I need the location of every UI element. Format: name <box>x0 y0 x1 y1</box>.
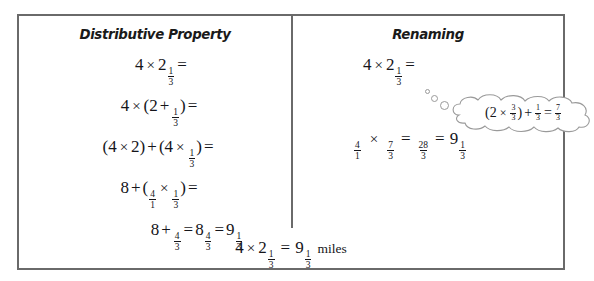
equals-symbol: = <box>186 96 200 115</box>
multiply-symbol: × <box>144 57 158 73</box>
numeral-four: 4 <box>363 55 372 74</box>
numeral-four: 4 <box>165 137 174 156</box>
numerator: 3 <box>510 104 516 112</box>
numeral-four: 4 <box>108 137 117 156</box>
whole-part: 2 <box>258 238 267 257</box>
numerator: 4 <box>149 189 156 199</box>
denominator: 1 <box>149 199 156 210</box>
distributive-property-steps: 4×213= 4×(2+13)= (4×2)+(4×13)= 8+(41×13)… <box>19 56 291 253</box>
right-paren: ) <box>180 96 186 115</box>
whole-part: 8 <box>195 220 204 239</box>
whole-part: 2 <box>386 55 395 74</box>
left-paren: ( <box>143 178 149 197</box>
denominator: 3 <box>305 259 312 270</box>
fraction-one-third: 13 <box>168 66 175 87</box>
numeral-eight: 8 <box>151 220 160 239</box>
equals-symbol: = <box>276 238 296 257</box>
summary-equation: 4×213=913miles <box>19 238 563 270</box>
denominator: 3 <box>555 113 561 122</box>
multiply-symbol: × <box>129 98 143 114</box>
denominator: 1 <box>354 150 361 161</box>
denominator: 3 <box>172 117 179 128</box>
fraction-one-third: 13 <box>305 249 312 270</box>
multiply-symbol: × <box>497 106 510 121</box>
numerator: 1 <box>459 140 466 150</box>
multiply-symbol: × <box>372 57 386 73</box>
thought-bubble-dot-small <box>425 89 430 94</box>
plus-symbol: + <box>522 105 534 121</box>
fraction-one-third: 13 <box>268 249 275 270</box>
numerator: 1 <box>168 66 175 76</box>
fraction-seven-thirds: 73 <box>555 104 561 122</box>
equals-symbol: = <box>182 220 196 239</box>
fraction-one-third: 13 <box>459 140 466 161</box>
equation-line: (4×2)+(4×13)= <box>19 138 291 169</box>
thought-bubble-dot-medium <box>431 95 438 102</box>
numeral-four: 4 <box>121 96 130 115</box>
thought-bubble: (2×33)+13=73 <box>423 88 594 140</box>
fraction-one-third: 13 <box>395 66 402 87</box>
denominator: 3 <box>535 113 541 122</box>
mixed-number: 213 <box>386 56 403 87</box>
denominator: 3 <box>387 150 394 161</box>
summary-units: miles <box>312 241 346 256</box>
equation-line: 8+(41×13)= <box>19 179 291 210</box>
equation-line: 4×213= <box>363 56 563 87</box>
plus-symbol: + <box>129 178 143 197</box>
renaming-title: Renaming <box>304 26 552 42</box>
plus-symbol: + <box>159 220 173 239</box>
fraction-one-third: 13 <box>172 189 179 210</box>
numeral-two: 2 <box>490 105 497 121</box>
mixed-number: 213 <box>258 238 275 270</box>
fraction-one-third: 13 <box>189 148 196 169</box>
numeral-four: 4 <box>135 55 144 74</box>
equals-symbol: = <box>186 178 200 197</box>
numerator: 1 <box>535 104 541 112</box>
multiply-symbol: × <box>362 131 386 147</box>
thought-bubble-dot-large <box>440 101 449 110</box>
denominator: 3 <box>268 259 275 270</box>
equals-symbol: = <box>395 129 417 148</box>
multiply-symbol: × <box>117 139 131 155</box>
fraction-four-over-one: 41 <box>149 189 156 210</box>
numerator: 1 <box>172 107 179 117</box>
numerator: 1 <box>395 66 402 76</box>
numerator: 7 <box>387 140 394 150</box>
fraction-three-thirds: 33 <box>510 104 516 122</box>
equals-symbol: = <box>175 55 189 74</box>
fraction-seven-thirds: 73 <box>387 140 394 161</box>
whole-part: 9 <box>226 220 235 239</box>
numerator: 1 <box>305 249 312 259</box>
fraction-one-third: 13 <box>535 104 541 122</box>
numerator: 7 <box>555 104 561 112</box>
numerator: 4 <box>354 140 361 150</box>
equation-line: 4×213= <box>19 56 291 87</box>
denominator: 3 <box>420 150 427 161</box>
renaming-column: Renaming 4×213= 41×73=283=913 <box>293 16 563 161</box>
numerator: 1 <box>268 249 275 259</box>
plus-symbol: + <box>145 137 159 156</box>
worked-example-panel: Distributive Property 4×213= 4×(2+13)= (… <box>17 14 565 270</box>
whole-part: 9 <box>295 238 304 257</box>
multiply-symbol: × <box>157 180 171 196</box>
denominator: 3 <box>189 158 196 169</box>
denominator: 3 <box>172 199 179 210</box>
equals-symbol: = <box>202 137 216 156</box>
denominator: 3 <box>510 113 516 122</box>
fraction-twenty-eight-thirds: 283 <box>418 140 430 161</box>
multiply-symbol: × <box>244 240 258 256</box>
mixed-number: 913 <box>295 238 312 270</box>
mixed-number: 213 <box>158 56 175 87</box>
distributive-property-title: Distributive Property <box>30 26 280 42</box>
equation-line: 4×(2+13)= <box>19 97 291 128</box>
fraction-one-third: 13 <box>172 107 179 128</box>
denominator: 3 <box>459 150 466 161</box>
denominator: 3 <box>168 76 175 87</box>
equals-symbol: = <box>212 220 226 239</box>
numerator: 1 <box>172 189 179 199</box>
numerator: 1 <box>189 148 196 158</box>
numeral-two: 2 <box>131 137 140 156</box>
denominator: 3 <box>395 76 402 87</box>
distributive-property-column: Distributive Property 4×213= 4×(2+13)= (… <box>19 16 291 253</box>
multiply-symbol: × <box>173 139 187 155</box>
